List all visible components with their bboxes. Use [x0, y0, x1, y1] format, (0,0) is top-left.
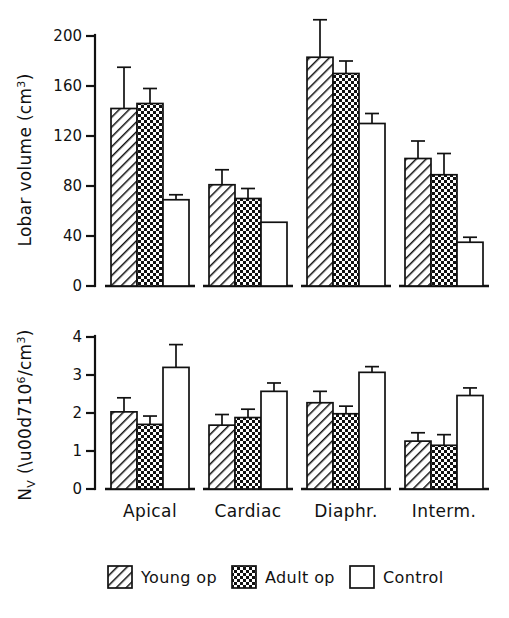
bar: [359, 372, 385, 489]
bar: [431, 445, 457, 489]
bar: [235, 199, 261, 287]
ytick-label: 160: [53, 77, 82, 95]
bar: [137, 424, 163, 489]
error-bar: [313, 391, 327, 402]
bar: [431, 175, 457, 286]
bar: [111, 412, 137, 489]
error-bar: [437, 435, 451, 446]
figure-panel: Lobar volume (cm3) 200 160 120 80 40 0: [0, 0, 509, 618]
ytick-label: 200: [53, 27, 82, 45]
bar: [405, 441, 431, 489]
bar: [235, 418, 261, 489]
ytick-label: 0: [72, 480, 82, 498]
ytick-label: 40: [63, 227, 82, 245]
y-axis-title-nv: NV (\u00d7106/cm3): [15, 329, 38, 500]
legend: Young opAdult opControl: [108, 566, 444, 588]
bar: [209, 185, 235, 286]
error-bar: [313, 20, 327, 58]
panel-lobar-volume: Lobar volume (cm3) 200 160 120 80 40 0: [15, 20, 489, 295]
bar: [163, 200, 189, 286]
bar: [261, 391, 287, 489]
legend-swatch: [350, 566, 374, 588]
bar: [307, 403, 333, 489]
ytick-label: 0: [72, 277, 82, 295]
bar: [457, 242, 483, 286]
ytick-label: 4: [72, 328, 82, 346]
bar: [359, 124, 385, 287]
bar: [333, 74, 359, 287]
y-ticks-nv: 4 3 2 1 0: [72, 328, 95, 498]
error-bar: [411, 141, 425, 159]
bar: [163, 367, 189, 489]
error-bar: [463, 388, 477, 396]
bar: [111, 109, 137, 287]
legend-swatch: [232, 566, 256, 588]
legend-label: Adult op: [265, 568, 335, 587]
legend-swatch: [108, 566, 132, 588]
ytick-label: 80: [63, 177, 82, 195]
error-bar: [117, 398, 131, 412]
bars-lobar-volume: [105, 20, 489, 286]
ytick-label: 3: [72, 366, 82, 384]
error-bar: [241, 409, 255, 417]
y-ticks-lobar-volume: 200 160 120 80 40 0: [53, 27, 95, 295]
legend-label: Control: [383, 568, 444, 587]
error-bar: [267, 383, 281, 391]
panel-nv-density: NV (\u00d7106/cm3) 4 3 2 1 0 ApicalCardi…: [15, 328, 489, 522]
ytick-label: 2: [72, 404, 82, 422]
category-label: Diaphr.: [314, 501, 377, 521]
bar: [137, 104, 163, 287]
error-bar: [215, 415, 229, 426]
error-bar: [117, 67, 131, 108]
legend-label: Young op: [140, 568, 217, 587]
error-bar: [339, 406, 353, 414]
ytick-label: 1: [72, 442, 82, 460]
error-bar: [143, 89, 157, 104]
error-bar: [143, 416, 157, 424]
error-bar: [215, 170, 229, 185]
y-axis-title-lobar-volume: Lobar volume (cm3): [15, 73, 35, 246]
error-bar: [411, 433, 425, 441]
error-bar: [437, 154, 451, 175]
figure-svg: Lobar volume (cm3) 200 160 120 80 40 0: [0, 0, 509, 618]
bars-nv-density: [105, 345, 489, 489]
error-bar: [365, 114, 379, 124]
ytick-label: 120: [53, 127, 82, 145]
error-bar: [339, 61, 353, 74]
bar: [307, 57, 333, 286]
category-label: Apical: [123, 501, 177, 521]
bar: [209, 425, 235, 489]
category-label: Cardiac: [214, 501, 281, 521]
category-label: Interm.: [412, 501, 476, 521]
bar: [261, 222, 287, 286]
error-bar: [365, 367, 379, 373]
error-bar: [169, 345, 183, 368]
error-bar: [241, 189, 255, 199]
category-labels: ApicalCardiacDiaphr.Interm.: [123, 501, 476, 521]
bar: [405, 159, 431, 287]
bar: [333, 414, 359, 489]
bar: [457, 396, 483, 489]
